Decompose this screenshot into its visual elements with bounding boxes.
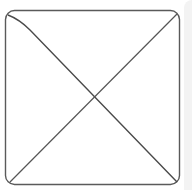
image-placeholder-canvas xyxy=(0,0,192,190)
crossed-box-icon xyxy=(0,0,192,190)
